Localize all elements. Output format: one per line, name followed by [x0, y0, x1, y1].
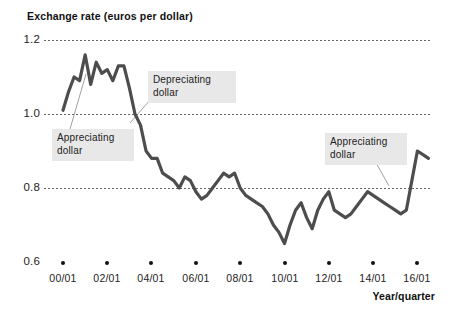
annotation-appreciating-dollar-1: Appreciating dollar [52, 129, 134, 161]
annotation-depreciating-dollar: Depreciating dollar [148, 71, 236, 103]
annotation-appreciating-dollar-2: Appreciating dollar [325, 133, 407, 165]
exchange-rate-chart: Exchange rate (euros per dollar) 1.2 1.0… [0, 0, 451, 318]
